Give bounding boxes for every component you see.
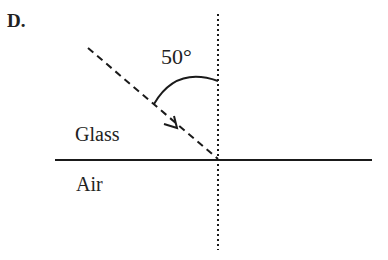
angle-label: 50°	[161, 44, 192, 70]
option-label: D.	[7, 10, 25, 32]
angle-arc	[154, 77, 218, 104]
glass-label: Glass	[75, 123, 119, 146]
refraction-diagram	[0, 0, 388, 260]
air-label: Air	[76, 173, 103, 196]
